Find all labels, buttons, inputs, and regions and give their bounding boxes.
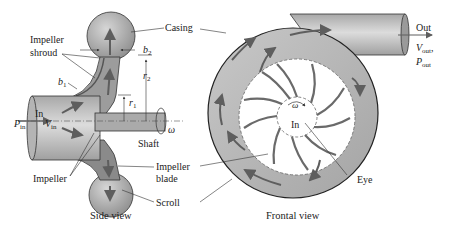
label-omega-side: ω xyxy=(168,124,175,135)
label-impeller-shroud-1: Impeller xyxy=(30,34,64,45)
label-p-out: Pout xyxy=(416,56,431,71)
label-v-out: Vout, xyxy=(416,42,434,57)
label-p-in: Pin xyxy=(14,118,26,133)
label-eye: Eye xyxy=(357,174,373,185)
shaft xyxy=(95,113,165,131)
label-out: Out xyxy=(416,22,431,33)
label-impeller: Impeller xyxy=(33,173,67,184)
label-in-side: In xyxy=(35,108,43,119)
label-casing: Casing xyxy=(165,22,193,33)
label-b2: b2 xyxy=(143,44,152,59)
inlet-pipe xyxy=(32,96,100,160)
label-impeller-blade-2: blade xyxy=(156,173,178,184)
label-impeller-shroud-2: shroud xyxy=(30,47,57,58)
frontal-view xyxy=(200,14,432,202)
label-omega-frontal: ω xyxy=(292,100,298,111)
label-r2: r2 xyxy=(143,70,150,85)
pump-diagram xyxy=(0,0,450,228)
label-shaft: Shaft xyxy=(138,138,159,149)
label-r1: r1 xyxy=(129,97,136,112)
label-b1: b1 xyxy=(58,76,67,91)
label-v-in: Vin xyxy=(45,118,57,133)
label-in-frontal: In xyxy=(291,119,299,130)
caption-side-view: Side view xyxy=(90,210,132,221)
label-scroll: Scroll xyxy=(156,197,180,208)
caption-frontal-view: Frontal view xyxy=(266,210,319,221)
label-impeller-blade-1: Impeller xyxy=(156,161,190,172)
